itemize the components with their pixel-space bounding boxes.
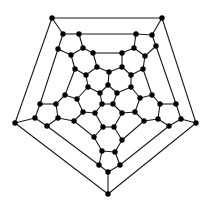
graph-node <box>76 31 81 36</box>
graph-edge <box>15 118 35 123</box>
graph-node <box>80 45 85 50</box>
graph-edge <box>40 49 58 104</box>
graph-edge <box>143 69 152 95</box>
graph-node <box>94 64 99 69</box>
graph-node <box>166 123 171 128</box>
graph-node <box>149 32 154 37</box>
graph-node <box>106 69 111 74</box>
graph-edge <box>162 18 196 123</box>
graph-node <box>128 72 133 77</box>
graph-edge <box>120 126 169 165</box>
graph-edge <box>15 123 108 194</box>
graph-node <box>99 148 104 153</box>
graph-node <box>44 123 49 128</box>
graph-node <box>71 118 76 123</box>
graph-node <box>80 109 85 114</box>
graph-node <box>178 116 183 121</box>
graph-node <box>133 31 138 36</box>
graph-node <box>131 45 136 50</box>
graph-edge <box>122 121 144 140</box>
graph-node <box>55 46 60 51</box>
graph-node <box>105 191 110 196</box>
graph-node <box>62 92 67 97</box>
graph-node <box>153 43 158 48</box>
graph-node <box>74 96 79 101</box>
graph-edge <box>15 18 52 123</box>
graph-node <box>90 50 95 55</box>
graph-node <box>128 84 133 89</box>
graph-node <box>149 92 154 97</box>
graph-node <box>60 31 65 36</box>
graph-node <box>105 169 110 174</box>
graph-node <box>114 90 119 95</box>
graph-node <box>83 72 88 77</box>
graph-node <box>99 101 104 106</box>
graph-node <box>91 134 96 139</box>
graph-node <box>110 101 115 106</box>
graph-node <box>12 120 17 125</box>
graph-node <box>111 124 116 129</box>
graph-edge <box>152 18 162 35</box>
graph-edge <box>108 123 196 194</box>
graph-node <box>155 116 160 121</box>
graph-node <box>119 137 124 142</box>
graph-node <box>96 162 101 167</box>
graph-node <box>173 101 178 106</box>
graph-node <box>141 118 146 123</box>
graph-node <box>55 115 60 120</box>
graph-node <box>105 82 110 87</box>
graph-diagram <box>0 0 208 209</box>
graph-node <box>119 64 124 69</box>
graph-edge <box>74 121 94 137</box>
graph-edge <box>65 69 75 95</box>
graph-node <box>142 53 147 58</box>
graph-node <box>137 95 142 100</box>
graph-node <box>132 109 137 114</box>
graph-node <box>85 84 90 89</box>
graph-edge <box>52 18 63 34</box>
graph-node <box>117 162 122 167</box>
graph-node <box>49 15 54 20</box>
graph-node <box>157 101 162 106</box>
graph-edge <box>156 46 176 104</box>
graph-node <box>112 149 117 154</box>
graph-node <box>140 66 145 71</box>
graph-node <box>53 101 58 106</box>
graph-node <box>97 90 102 95</box>
graph-node <box>68 52 73 57</box>
graph-node <box>92 110 97 115</box>
graph-node <box>193 120 198 125</box>
graph-node <box>159 15 164 20</box>
graph-node <box>119 50 124 55</box>
graph-node <box>37 101 42 106</box>
graph-edge <box>47 126 99 165</box>
graph-edges <box>15 18 196 194</box>
graph-node <box>119 110 124 115</box>
graph-node <box>32 115 37 120</box>
graph-node <box>72 66 77 71</box>
graph-node <box>100 124 105 129</box>
